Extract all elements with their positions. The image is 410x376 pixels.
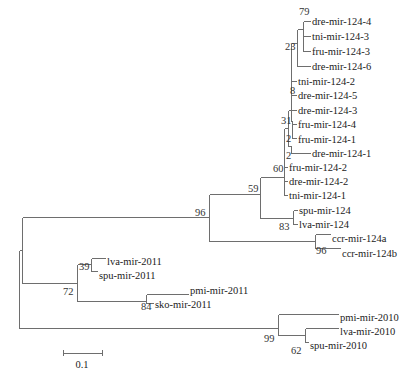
leaf-label: lva-mir-124: [299, 219, 350, 230]
bootstrap-value: 59: [248, 183, 259, 194]
leaf-label: ccr-mir-124a: [332, 233, 387, 244]
leaf-label: dre-mir-124-4: [312, 16, 372, 27]
leaf-label: fru-mir-124-1: [298, 134, 356, 145]
bootstrap-value: 23: [285, 41, 296, 52]
leaf-label: spu-mir-124: [299, 205, 351, 216]
phylogenetic-tree: dre-mir-124-4tni-mir-124-3fru-mir-124-3d…: [0, 0, 410, 376]
scale-bar-label: 0.1: [75, 359, 88, 370]
leaf-label: fru-mir-124-4: [298, 119, 357, 130]
bootstrap-value: 99: [264, 333, 275, 344]
leaf-label: lva-mir-2010: [340, 326, 395, 337]
leaf-label: ccr-mir-124b: [342, 248, 397, 259]
scale-bar: 0.1: [63, 350, 103, 370]
leaf-label: dre-mir-124-1: [312, 148, 371, 159]
bootstrap-value: 62: [291, 345, 302, 356]
leaf-label: dre-mir-124-2: [289, 176, 348, 187]
bootstrap-value: 96: [316, 245, 327, 256]
bootstrap-value: 2: [286, 133, 291, 144]
bootstrap-value: 83: [279, 221, 290, 232]
bootstrap-value: 84: [141, 301, 152, 312]
leaf-label: pmi-mir-2011: [190, 285, 248, 296]
leaf-label: tni-mir-124-3: [312, 31, 369, 42]
leaf-label: dre-mir-124-5: [298, 90, 357, 101]
leaf-label: tni-mir-124-1: [289, 190, 346, 201]
leaf-label: sko-mir-2011: [155, 299, 212, 310]
leaf-label: fru-mir-124-3: [312, 46, 370, 57]
bootstrap-value: 60: [273, 163, 284, 174]
bootstrap-value: 96: [195, 207, 206, 218]
leaf-label: dre-mir-124-6: [312, 61, 371, 72]
bootstrap-value: 79: [299, 6, 310, 17]
bootstrap-value: 31: [281, 115, 292, 126]
leaf-label: lva-mir-2011: [107, 256, 162, 267]
leaf-label: fru-mir-124-2: [289, 162, 347, 173]
leaf-label: tni-mir-124-2: [298, 76, 355, 87]
leaf-label: dre-mir-124-3: [298, 105, 357, 116]
bootstrap-value: 2: [286, 150, 291, 161]
leaf-label: spu-mir-2011: [99, 270, 156, 281]
leaf-label: pmi-mir-2010: [340, 312, 399, 323]
bootstrap-value: 72: [63, 286, 74, 297]
leaf-label: spu-mir-2010: [310, 340, 367, 351]
bootstrap-value: 8: [290, 85, 295, 96]
bootstrap-value: 39: [79, 261, 90, 272]
